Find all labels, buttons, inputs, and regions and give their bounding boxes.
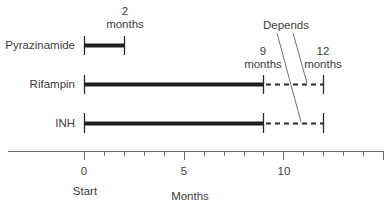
leader-to-inh <box>277 33 301 122</box>
timeline-graphics <box>0 0 391 207</box>
drug-label-inh: INH <box>0 117 75 130</box>
two-months-number: 2 <box>122 5 128 18</box>
tb-treatment-timeline-diagram: Pyrazinamide Rifampin INH 2 months 9 mon… <box>0 0 391 207</box>
drug-label-pyrazinamide: Pyrazinamide <box>0 39 75 52</box>
months-axis <box>8 151 384 160</box>
start-label: Start <box>73 185 97 198</box>
axis-tick-label-10: 10 <box>278 165 291 178</box>
depends-leader-lines <box>277 33 307 122</box>
two-months-unit: months <box>106 18 144 31</box>
nine-months-unit: months <box>244 58 282 71</box>
axis-tick-label-5: 5 <box>181 165 187 178</box>
depends-label: Depends <box>263 19 309 32</box>
drug-label-rifampin: Rifampin <box>0 78 75 91</box>
inh-bar <box>84 113 324 133</box>
rifampin-bar <box>84 75 324 94</box>
twelve-months-unit: months <box>304 58 342 71</box>
nine-months-number: 9 <box>260 45 266 58</box>
pyrazinamide-bar <box>84 36 125 55</box>
twelve-months-number: 12 <box>317 45 330 58</box>
axis-tick-label-0: 0 <box>81 165 87 178</box>
axis-title: Months <box>171 190 209 203</box>
